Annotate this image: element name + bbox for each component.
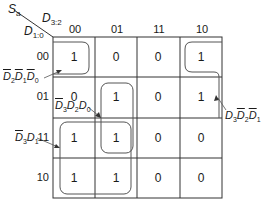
kmap-cell: 1 bbox=[180, 77, 222, 117]
kmap-cell: 1 bbox=[53, 118, 95, 158]
kmap-cell: 0 bbox=[180, 118, 222, 158]
column-header: 11 bbox=[138, 23, 180, 35]
term-label-g1: D2D1D0 bbox=[3, 70, 39, 84]
kmap-cell: 1 bbox=[180, 37, 222, 77]
row-variable-label: D1:0 bbox=[24, 24, 44, 40]
row-header: 00 bbox=[27, 50, 49, 62]
row-header: 10 bbox=[27, 171, 49, 183]
column-header: 01 bbox=[96, 23, 138, 35]
column-header: 00 bbox=[54, 23, 96, 35]
kmap-cell: 0 bbox=[180, 158, 222, 198]
kmap-cell: 0 bbox=[95, 37, 137, 77]
kmap-cell: 1 bbox=[95, 77, 137, 117]
term-label-g4: D3D1 bbox=[15, 131, 39, 145]
kmap-cell: 1 bbox=[53, 37, 95, 77]
kmap-cell: 1 bbox=[95, 158, 137, 198]
row-header: 01 bbox=[27, 90, 49, 102]
output-label: Sa bbox=[8, 2, 20, 18]
term-label-g3: D3D2D1 bbox=[225, 109, 261, 123]
term-label-g2: D3D2D0 bbox=[55, 99, 91, 113]
kmap-cell: 0 bbox=[137, 118, 179, 158]
kmap-cell: 1 bbox=[53, 158, 95, 198]
kmap-cell: 1 bbox=[95, 118, 137, 158]
kmap-cell: 0 bbox=[137, 77, 179, 117]
column-header: 10 bbox=[181, 23, 223, 35]
karnaugh-map-grid: 1 0 0 1 0 1 0 1 1 1 0 0 1 1 0 0 bbox=[53, 37, 222, 198]
kmap-cell: 0 bbox=[137, 37, 179, 77]
kmap-cell: 0 bbox=[137, 158, 179, 198]
